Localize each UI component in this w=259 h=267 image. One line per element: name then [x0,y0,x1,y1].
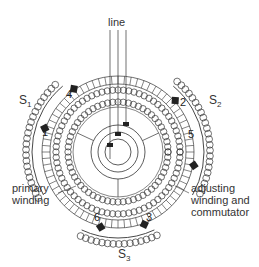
brush-label-1: 1 [42,126,48,138]
brush-label-3: 3 [146,211,152,223]
label-adjusting-winding: adjusting winding and commutator [191,182,250,218]
brush-label-6: 6 [94,211,100,223]
brush-label-5: 5 [188,128,194,140]
label-s3: S3 [118,248,130,265]
motor-diagram [0,0,259,267]
label-line: line [108,16,125,28]
label-s2: S2 [209,94,221,111]
label-s1: S1 [19,94,31,111]
brush-label-4: 4 [66,88,72,100]
brush-label-2: 2 [180,96,186,108]
label-primary-winding: primary winding [12,182,49,206]
